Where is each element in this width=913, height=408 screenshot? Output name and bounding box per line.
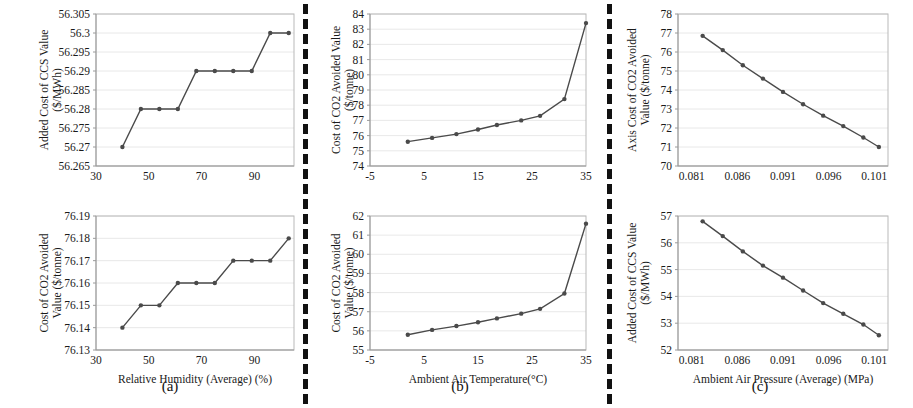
x-tick-label: 30 — [90, 170, 102, 182]
data-point — [741, 249, 745, 253]
y-tick-label: 76.15 — [64, 299, 90, 311]
y-tick-label: 74 — [661, 84, 673, 96]
data-point — [801, 288, 805, 292]
data-point — [120, 145, 124, 149]
chart-svg-b-bottom: 5556575859606162-55152535Cost of CO2 Avo… — [326, 206, 594, 402]
data-point — [700, 34, 704, 38]
x-tick-label: 0.101 — [861, 170, 887, 182]
x-tick-label: 5 — [421, 354, 427, 366]
data-point — [430, 328, 434, 332]
data-point — [821, 301, 825, 305]
y-tick-label: 76.18 — [64, 232, 90, 244]
y-tick-label: 73 — [661, 103, 673, 115]
data-point — [139, 107, 143, 111]
data-point — [700, 219, 704, 223]
x-tick-label: 0.086 — [724, 170, 750, 182]
x-tick-label: 0.081 — [679, 354, 705, 366]
y-tick-label: 55 — [661, 264, 673, 276]
y-tick-label: 56.265 — [58, 160, 90, 172]
series-line — [703, 36, 879, 147]
data-point — [120, 325, 124, 329]
y-tick-label: 70 — [661, 160, 673, 172]
y-tick-label: 56 — [661, 237, 673, 249]
chart-panel-a-bottom: 76.1376.1476.1576.1676.1776.1876.1930507… — [34, 206, 302, 402]
y-axis-label: Axis Cost of CO2 Avoided — [626, 28, 638, 152]
x-tick-label: 0.096 — [816, 354, 842, 366]
chart-svg-c-top: 7071727374757677780.0810.0860.0910.0960.… — [622, 4, 898, 194]
plot-area-border — [678, 216, 888, 350]
y-tick-label: 61 — [353, 229, 365, 241]
y-tick-label: 76 — [353, 130, 365, 142]
plot-area-border — [370, 216, 586, 350]
data-point — [841, 124, 845, 128]
data-point — [157, 303, 161, 307]
y-axis-label: Added Cost of CCS Value — [38, 30, 50, 151]
x-tick-label: 90 — [249, 354, 261, 366]
x-tick-label: 25 — [526, 354, 538, 366]
x-tick-label: 30 — [90, 354, 102, 366]
y-axis-label: Value ($/tonne) — [51, 247, 64, 318]
panel-caption-b: (b) — [400, 378, 520, 395]
data-point — [157, 107, 161, 111]
data-point — [721, 234, 725, 238]
chart-panel-b-top: 7475767778798081828384-55152535Cost of C… — [326, 4, 594, 194]
y-tick-label: 78 — [661, 8, 673, 20]
x-tick-label: 0.081 — [679, 170, 705, 182]
x-tick-label: -5 — [365, 354, 375, 366]
x-tick-label: 70 — [196, 354, 208, 366]
data-point — [268, 31, 272, 35]
y-tick-label: 76.16 — [64, 277, 90, 289]
y-axis-label: Value ($/tonne) — [343, 247, 356, 318]
y-tick-label: 53 — [661, 317, 673, 329]
y-tick-label: 76.19 — [64, 210, 90, 222]
y-axis-label: ($/MWh) — [51, 68, 64, 112]
y-tick-label: 56.295 — [58, 46, 90, 58]
data-point — [406, 332, 410, 336]
chart-panel-c-bottom: 5253545556570.0810.0860.0910.0960.101Add… — [622, 206, 898, 402]
y-tick-label: 74 — [353, 160, 365, 172]
data-point — [801, 102, 805, 106]
x-tick-label: -5 — [365, 170, 375, 182]
data-point — [430, 136, 434, 140]
y-tick-label: 57 — [661, 210, 673, 222]
data-point — [287, 236, 291, 240]
y-tick-label: 82 — [353, 38, 365, 50]
y-tick-label: 71 — [661, 141, 673, 153]
data-point — [861, 322, 865, 326]
data-point — [454, 132, 458, 136]
data-point — [139, 303, 143, 307]
data-point — [176, 281, 180, 285]
data-point — [268, 258, 272, 262]
y-tick-label: 56.29 — [64, 65, 90, 77]
data-point — [287, 31, 291, 35]
y-tick-label: 76.13 — [64, 344, 90, 356]
y-tick-label: 56.28 — [64, 103, 90, 115]
data-point — [176, 107, 180, 111]
y-tick-label: 76.14 — [64, 322, 90, 334]
data-point — [519, 311, 523, 315]
data-point — [781, 275, 785, 279]
chart-svg-a-top: 56.26556.2756.27556.2856.28556.2956.2955… — [34, 4, 302, 194]
data-point — [519, 118, 523, 122]
x-tick-label: 5 — [421, 170, 427, 182]
data-point — [495, 123, 499, 127]
y-axis-label: Added Cost of CCS Value — [626, 223, 638, 344]
x-tick-label: 25 — [526, 170, 538, 182]
data-point — [821, 113, 825, 117]
x-tick-label: 15 — [472, 354, 484, 366]
y-tick-label: 75 — [661, 65, 673, 77]
data-point — [213, 281, 217, 285]
panel-divider-1 — [303, 4, 308, 404]
y-tick-label: 54 — [661, 290, 673, 302]
y-axis-label: ($/MWh) — [639, 261, 652, 305]
data-point — [877, 145, 881, 149]
x-tick-label: 35 — [580, 354, 592, 366]
y-tick-label: 75 — [353, 145, 365, 157]
x-tick-label: 0.101 — [861, 354, 887, 366]
y-tick-label: 77 — [353, 114, 365, 126]
panel-caption-c: (c) — [700, 378, 820, 395]
y-axis-label: Cost of CO2 Avoided — [38, 233, 50, 332]
data-point — [584, 221, 588, 225]
data-point — [495, 316, 499, 320]
x-tick-label: 0.096 — [816, 170, 842, 182]
